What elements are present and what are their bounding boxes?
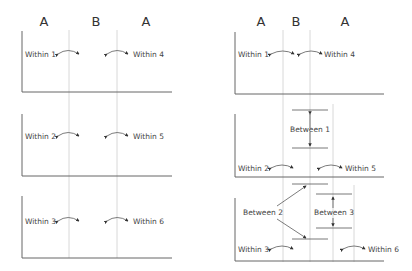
- left-header-a1: A: [40, 14, 49, 29]
- right-within-5: Within 5: [345, 164, 376, 173]
- left-header-a2: A: [142, 14, 151, 29]
- right-within-2: Within 2: [238, 164, 269, 173]
- left-within-6: Within 6: [133, 217, 164, 226]
- left-panel-3: Within 3 Within 6: [22, 196, 172, 258]
- left-within-2: Within 2: [25, 132, 56, 141]
- left-panel-1: Within 1 Within 4: [22, 31, 172, 92]
- left-panel-2: Within 2 Within 5: [22, 114, 172, 176]
- right-within-1: Within 1: [238, 50, 269, 59]
- left-header-b: B: [92, 14, 101, 29]
- left-within-5: Within 5: [133, 132, 164, 141]
- left-within-3: Within 3: [25, 217, 56, 226]
- left-within-1: Within 1: [25, 50, 56, 59]
- right-within-6: Within 6: [368, 245, 399, 254]
- right-within-3: Within 3: [238, 245, 269, 254]
- right-header-b: B: [292, 14, 301, 29]
- left-diagram: A B A Within 1 Within 4 Within 2 Within …: [22, 14, 172, 258]
- left-within-4: Within 4: [133, 50, 164, 59]
- right-between-3: Between 3: [314, 208, 354, 217]
- right-between-1: Between 1: [290, 125, 330, 134]
- right-between-2: Between 2: [243, 208, 283, 217]
- right-within-4: Within 4: [324, 50, 355, 59]
- right-diagram: A B A Within 1 Within 4 Between 1 Within…: [235, 14, 399, 262]
- right-header-a2: A: [341, 14, 350, 29]
- diagram-canvas: A B A Within 1 Within 4 Within 2 Within …: [0, 0, 412, 271]
- right-panel-3: Between 2 Between 3 Within 3 Within 6: [235, 184, 399, 261]
- right-header-a1: A: [257, 14, 266, 29]
